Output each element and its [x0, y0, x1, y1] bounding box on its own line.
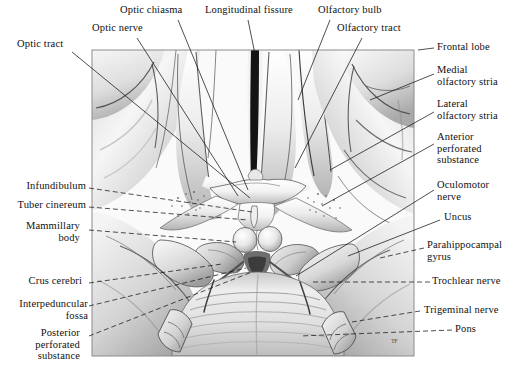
label-optic-chiasma: Optic chiasma — [120, 4, 182, 16]
label-olfactory-bulb: Olfactory bulb — [318, 4, 382, 16]
label-uncus: Uncus — [444, 211, 472, 223]
label-tuber-cinereum: Tuber cinereum — [0, 199, 86, 211]
label-olfactory-tract: Olfactory tract — [337, 22, 401, 34]
label-frontal-lobe: Frontal lobe — [437, 41, 490, 53]
anatomical-figure: Optic tract Optic nerve Optic chiasma Lo… — [0, 0, 512, 379]
label-parahippocampal-gyrus: Parahippocampalgyrus — [427, 239, 502, 262]
label-trigeminal-nerve: Trigeminal nerve — [424, 304, 499, 316]
label-trochlear-nerve: Trochlear nerve — [432, 275, 501, 287]
label-mammillary-body: Mammillarybody — [0, 220, 80, 243]
label-posterior-perforated-substance: Posteriorperforatedsubstance — [0, 327, 80, 362]
label-pons: Pons — [455, 323, 476, 335]
label-infundibulum: Infundibulum — [0, 180, 86, 192]
label-optic-nerve: Optic nerve — [92, 22, 143, 34]
leader-longitudinal-fissure — [248, 20, 255, 54]
artist-monogram: TF — [391, 338, 397, 344]
label-medial-olfactory-stria: Medialolfactory stria — [437, 64, 498, 87]
label-lateral-olfactory-stria: Lateralolfactory stria — [437, 98, 498, 121]
label-anterior-perforated-substance: Anteriorperforatedsubstance — [437, 131, 482, 166]
leader-frontal-lobe — [418, 48, 434, 50]
mammillary-body-right — [258, 227, 282, 252]
label-oculomotor-nerve: Oculomotornerve — [437, 179, 489, 202]
label-interpeduncular-fossa: Interpeduncularfossa — [0, 298, 88, 321]
label-optic-tract: Optic tract — [17, 38, 63, 50]
label-crus-cerebri: Crus cerebri — [0, 275, 82, 287]
illustration-plate — [92, 50, 414, 356]
label-longitudinal-fissure: Longitudinal fissure — [205, 4, 293, 16]
